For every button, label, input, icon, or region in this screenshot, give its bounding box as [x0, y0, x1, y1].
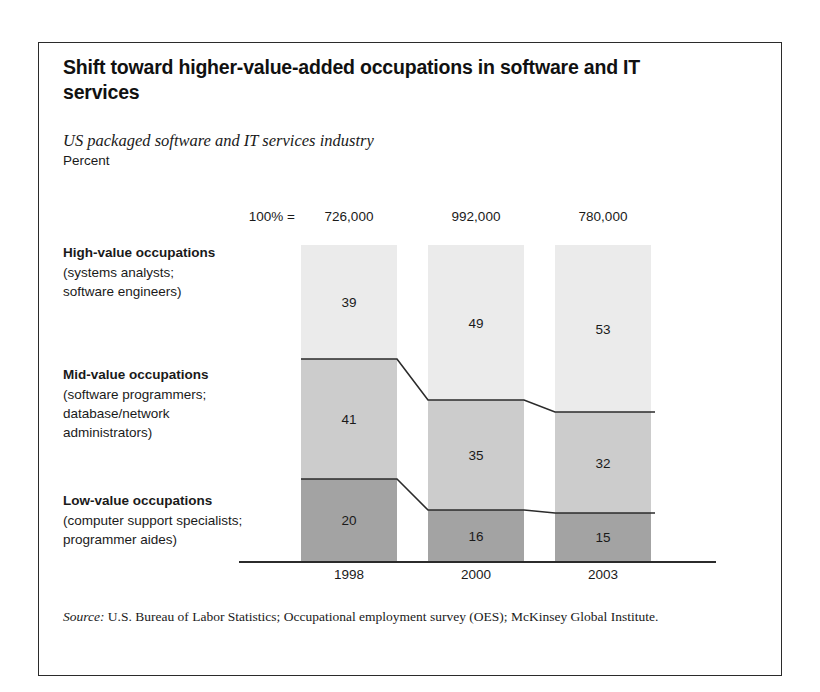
bar-segment-low-2000[interactable]: 16	[428, 510, 524, 561]
total-value-1998: 726,000	[301, 209, 397, 224]
bar-segment-mid-1998[interactable]: 41	[301, 359, 397, 479]
legend-title-mid-value: Mid-value occupations	[63, 365, 313, 384]
exhibit-frame: Shift toward higher-value-added occupati…	[38, 42, 782, 676]
legend-title-low-value: Low-value occupations	[63, 491, 313, 510]
bar-segment-high-1998[interactable]: 39	[301, 245, 397, 359]
bar-segment-high-2000[interactable]: 49	[428, 245, 524, 400]
bar-value-low-2000: 16	[428, 528, 524, 543]
x-axis-label-1998: 1998	[301, 567, 397, 582]
legend-desc-low-value-line-1: (computer support specialists;	[63, 511, 313, 530]
bar-value-mid-1998: 41	[301, 412, 397, 427]
bar-segment-low-2003[interactable]: 15	[555, 513, 651, 561]
bar-segment-low-1998[interactable]: 20	[301, 479, 397, 561]
legend-item-mid-value: Mid-value occupations (software programm…	[63, 365, 313, 442]
bar-value-high-1998: 39	[301, 295, 397, 310]
source-note: Source: U.S. Bureau of Labor Statistics;…	[63, 609, 763, 625]
bar-value-low-2003: 15	[555, 530, 651, 545]
source-text: U.S. Bureau of Labor Statistics; Occupat…	[104, 609, 658, 624]
bar-column-1998[interactable]: 39 41 20	[301, 245, 397, 561]
x-axis-label-2000: 2000	[428, 567, 524, 582]
legend-desc-mid-value-line-2: database/network	[63, 404, 313, 423]
legend-desc-mid-value-line-3: administrators)	[63, 423, 313, 442]
bar-segment-high-2003[interactable]: 53	[555, 245, 651, 412]
bar-column-2003[interactable]: 53 32 15	[555, 245, 651, 561]
legend-desc-low-value-line-2: programmer aides)	[63, 530, 313, 549]
stack-connector-lines	[39, 43, 783, 677]
legend-title-high-value: High-value occupations	[63, 243, 313, 262]
legend-desc-high-value-line-1: (systems analysts;	[63, 263, 313, 282]
bar-value-low-1998: 20	[301, 513, 397, 528]
x-axis-label-2003: 2003	[555, 567, 651, 582]
bar-segment-mid-2000[interactable]: 35	[428, 400, 524, 510]
bar-value-mid-2000: 35	[428, 448, 524, 463]
source-label: Source:	[63, 609, 104, 624]
legend-item-low-value: Low-value occupations (computer support …	[63, 491, 313, 549]
legend-item-high-value: High-value occupations (systems analysts…	[63, 243, 313, 301]
bar-value-high-2000: 49	[428, 315, 524, 330]
chart-plot-area: 100% = 726,000 992,000 780,000 High-valu…	[39, 43, 783, 677]
total-value-2003: 780,000	[555, 209, 651, 224]
totals-prefix-label: 100% =	[225, 209, 295, 224]
bar-column-2000[interactable]: 49 35 16	[428, 245, 524, 561]
bar-segment-mid-2003[interactable]: 32	[555, 412, 651, 513]
total-value-2000: 992,000	[428, 209, 524, 224]
bar-value-mid-2003: 32	[555, 455, 651, 470]
legend-desc-high-value-line-2: software engineers)	[63, 282, 313, 301]
bar-value-high-2003: 53	[555, 321, 651, 336]
legend-desc-mid-value-line-1: (software programmers;	[63, 385, 313, 404]
x-axis-baseline	[239, 561, 716, 563]
